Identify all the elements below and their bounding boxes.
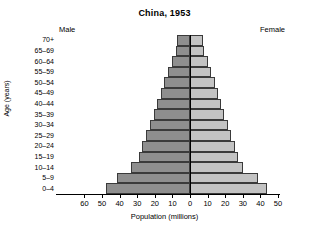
x-axis-line	[56, 194, 280, 195]
x-tick	[102, 194, 103, 198]
age-label-04: 0–4	[42, 185, 54, 192]
bar-female-2024	[190, 141, 235, 152]
bar-female-1519	[190, 152, 238, 163]
bar-male-5559	[168, 67, 190, 78]
age-label-5559: 55–59	[35, 68, 54, 75]
x-tick	[137, 194, 138, 198]
pyramid-row	[58, 56, 278, 67]
bar-male-6569	[176, 46, 190, 57]
age-label-3539: 35–39	[35, 111, 54, 118]
bar-male-5054	[164, 77, 190, 88]
x-tick	[225, 194, 226, 198]
bar-female-4549	[190, 88, 218, 99]
bar-female-1014	[190, 162, 243, 173]
pyramid-row	[58, 173, 278, 184]
female-side-label: Female	[260, 25, 285, 34]
x-axis-title: Population (millions)	[0, 212, 329, 221]
pyramid-row	[58, 35, 278, 46]
age-label-1014: 10–14	[35, 164, 54, 171]
x-tick	[190, 194, 191, 198]
pyramid-row	[58, 46, 278, 57]
pyramid-row	[58, 77, 278, 88]
x-tick	[84, 194, 85, 198]
age-label-6064: 60–64	[35, 58, 54, 65]
x-tick	[260, 194, 261, 198]
x-tick	[243, 194, 244, 198]
bar-female-3034	[190, 120, 228, 131]
bar-male-59	[117, 173, 190, 184]
age-label-3034: 30–34	[35, 121, 54, 128]
bar-female-5559	[190, 67, 211, 78]
age-label-2529: 25–29	[35, 132, 54, 139]
bar-male-1519	[139, 152, 190, 163]
pyramid-row	[58, 141, 278, 152]
age-label-59: 5–9	[42, 174, 54, 181]
bar-male-3539	[154, 109, 190, 120]
male-side-label: Male	[59, 25, 75, 34]
bar-male-2024	[142, 141, 190, 152]
pyramid-row	[58, 88, 278, 99]
bar-male-2529	[146, 130, 190, 141]
bar-male-4044	[157, 99, 190, 110]
age-label-5054: 50–54	[35, 79, 54, 86]
x-tick	[278, 194, 279, 198]
bar-female-6569	[190, 46, 204, 57]
x-tick	[155, 194, 156, 198]
x-tick-label: 50	[268, 199, 288, 208]
bar-male-04	[106, 183, 190, 194]
bar-male-6064	[172, 56, 190, 67]
age-label-4549: 45–49	[35, 89, 54, 96]
bar-male-1014	[131, 162, 190, 173]
pyramid-row	[58, 152, 278, 163]
age-axis-labels: 70+65–6960–6455–5950–5445–4940–4435–3930…	[0, 35, 54, 194]
pyramid-row	[58, 67, 278, 78]
x-tick	[208, 194, 209, 198]
x-tick	[172, 194, 173, 198]
pyramid-row	[58, 130, 278, 141]
bar-female-5054	[190, 77, 215, 88]
bar-female-59	[190, 173, 258, 184]
bar-male-4549	[161, 88, 190, 99]
bar-female-6064	[190, 56, 208, 67]
pyramid-row	[58, 99, 278, 110]
bar-male-70+	[177, 35, 190, 46]
center-axis-line	[190, 35, 191, 194]
bar-female-3539	[190, 109, 224, 120]
bar-female-70+	[190, 35, 203, 46]
pyramid-row	[58, 183, 278, 194]
x-tick	[120, 194, 121, 198]
plot-area	[58, 35, 278, 194]
chart-title: China, 1953	[0, 8, 329, 18]
age-label-2024: 20–24	[35, 142, 54, 149]
age-label-6569: 65–69	[35, 47, 54, 54]
pyramid-row	[58, 120, 278, 131]
age-label-1519: 15–19	[35, 153, 54, 160]
pyramid-row	[58, 109, 278, 120]
bar-female-04	[190, 183, 267, 194]
age-label-70+: 70+	[42, 36, 54, 43]
pyramid-row	[58, 162, 278, 173]
bar-female-4044	[190, 99, 221, 110]
bar-female-2529	[190, 130, 231, 141]
bar-male-3034	[150, 120, 190, 131]
population-pyramid-figure: China, 1953 Male Female Age (years) 70+6…	[0, 0, 329, 236]
age-label-4044: 40–44	[35, 100, 54, 107]
